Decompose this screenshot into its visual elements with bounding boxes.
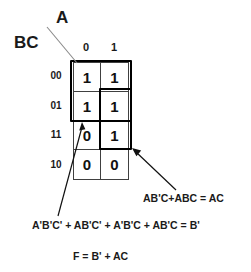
- kmap-cell-r1c0: 1: [74, 92, 101, 121]
- kmap-grid: 1 1 1 1 0 1 0 0: [73, 62, 129, 180]
- row-variable-label: BC: [14, 33, 39, 53]
- column-header-1: 1: [107, 41, 121, 53]
- kmap-cell-r2c0: 0: [74, 121, 101, 150]
- kmap-cell-r3c1: 0: [101, 150, 128, 179]
- kmap-cell-r0c1: 1: [101, 63, 128, 92]
- row-header-11: 11: [44, 129, 68, 140]
- equation-ac: AB'C+ABC = AC: [143, 192, 224, 204]
- kmap-cell-r0c0: 1: [74, 63, 101, 92]
- row-header-01: 01: [44, 100, 68, 111]
- axis-divider-line: [47, 27, 77, 63]
- ac-arrowhead: [132, 148, 141, 156]
- row-header-00: 00: [44, 70, 68, 81]
- kmap-cell-r2c1: 1: [101, 121, 128, 150]
- column-variable-label: A: [56, 8, 68, 28]
- equation-result: F = B' + AC: [73, 250, 128, 262]
- kmap-cell-r1c1: 1: [101, 92, 128, 121]
- kmap-diagram: A BC 0 1 00 01 11 10 1 1 1 1 0 1 0 0 AB'…: [0, 0, 251, 272]
- equation-b-prime: A'B'C' + AB'C' + A'B'C + AB'C = B': [32, 219, 200, 231]
- ac-arrow-line: [136, 152, 176, 190]
- column-header-0: 0: [79, 41, 93, 53]
- kmap-cell-r3c0: 0: [74, 150, 101, 179]
- row-header-10: 10: [44, 159, 68, 170]
